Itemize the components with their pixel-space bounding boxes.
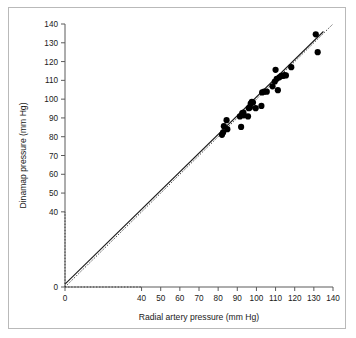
data-point (238, 124, 244, 130)
y-tick-label: 120 (44, 58, 58, 67)
x-tick-label: 80 (214, 294, 224, 303)
y-tick-label: 110 (45, 76, 58, 85)
x-tick-label: 0 (63, 294, 68, 303)
data-point (224, 126, 230, 132)
y-tick-label: 50 (49, 189, 59, 198)
data-point (315, 49, 321, 55)
x-tick-label: 110 (269, 294, 282, 303)
x-tick-label: 70 (194, 294, 204, 303)
data-point (250, 99, 256, 105)
y-tick-label: 130 (44, 39, 58, 48)
y-tick-label: 60 (49, 170, 59, 179)
y-tick-label: 80 (49, 133, 59, 142)
data-point (245, 113, 251, 119)
x-tick-label: 120 (288, 294, 302, 303)
data-point (272, 67, 278, 73)
x-tick-label: 140 (326, 294, 340, 303)
x-axis-title: Radial artery pressure (mm Hg) (139, 312, 259, 322)
data-point (253, 105, 259, 111)
y-tick-label: 90 (49, 114, 59, 123)
y-axis-title: Dinamap pressure (mm Hg) (18, 102, 28, 208)
x-tick-label: 40 (137, 294, 147, 303)
identity-line (65, 24, 333, 287)
x-tick-label: 100 (250, 294, 264, 303)
data-point (288, 64, 294, 70)
data-point (275, 87, 281, 93)
y-tick-label: 100 (44, 95, 58, 104)
y-tick-label: 140 (44, 20, 58, 29)
data-point (313, 31, 319, 37)
data-point (258, 103, 264, 109)
data-point (223, 117, 229, 123)
x-tick-label: 90 (233, 294, 243, 303)
x-tick-label: 60 (175, 294, 185, 303)
figure-frame: 0405060708090100110120130140040506070809… (8, 7, 346, 329)
y-tick-label: 40 (49, 208, 59, 217)
y-tick-label: 70 (49, 152, 59, 161)
y-tick-label: 0 (53, 283, 58, 292)
scatter-plot: 0405060708090100110120130140040506070809… (9, 8, 347, 330)
x-tick-label: 50 (156, 294, 166, 303)
regression-line (65, 32, 323, 285)
data-point (283, 72, 289, 78)
x-tick-label: 130 (307, 294, 321, 303)
data-point (264, 89, 270, 95)
